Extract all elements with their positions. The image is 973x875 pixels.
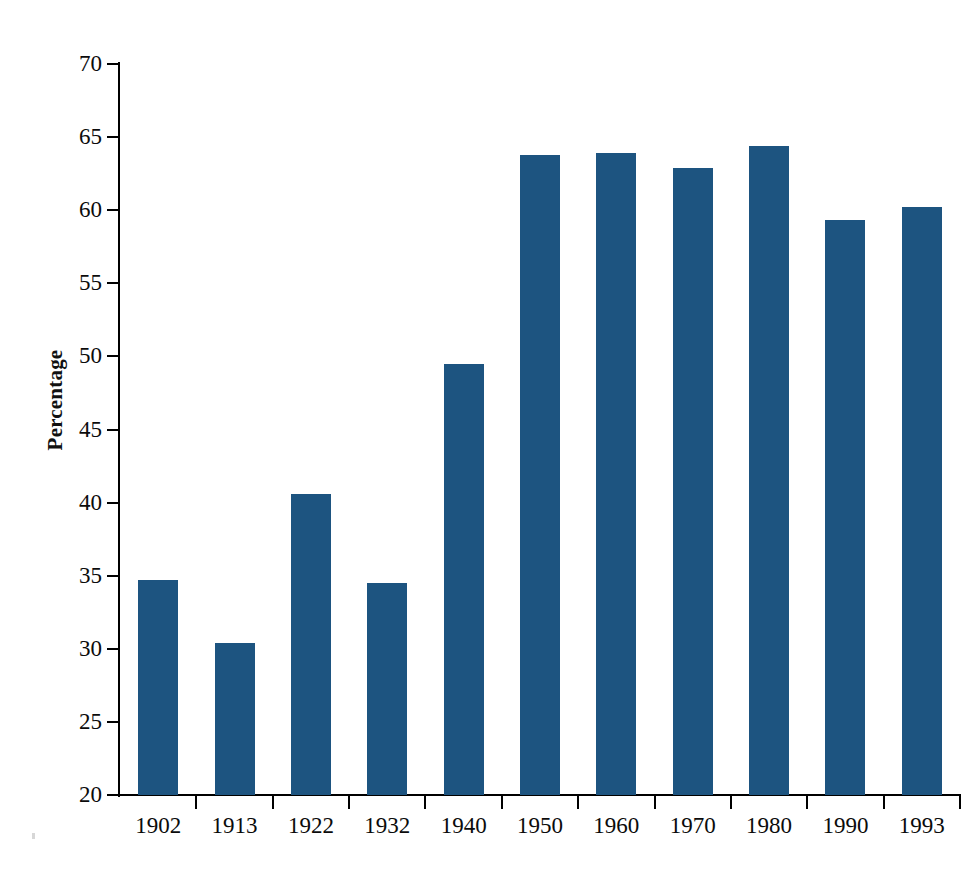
bar: [673, 168, 713, 795]
x-axis-tick: [730, 796, 732, 809]
y-axis-title: Percentage: [40, 280, 70, 520]
y-axis-tick: [107, 721, 118, 723]
y-axis-tick-label: 50: [44, 344, 102, 367]
x-axis-tick-label: 1993: [877, 812, 967, 840]
y-axis-tick-label: 60: [44, 198, 102, 221]
x-axis-tick: [272, 796, 274, 809]
x-axis-tick: [806, 796, 808, 809]
scan-speck: [32, 833, 35, 839]
bar: [825, 220, 865, 795]
x-axis-tick: [654, 796, 656, 809]
y-axis-tick: [107, 355, 118, 357]
bar: [596, 153, 636, 795]
y-axis-tick: [107, 136, 118, 138]
y-axis-tick-label-wrap: 30: [40, 637, 102, 660]
bar: [215, 643, 255, 795]
y-axis-tick: [107, 648, 118, 650]
y-axis-tick-label: 70: [44, 52, 102, 75]
y-axis-tick-label: 35: [44, 564, 102, 587]
x-axis-tick: [348, 796, 350, 809]
x-axis-tick: [959, 796, 961, 809]
y-axis-tick-label: 30: [44, 637, 102, 660]
y-axis-tick-label: 65: [44, 125, 102, 148]
bar: [902, 207, 942, 795]
y-axis-tick: [107, 575, 118, 577]
y-axis-tick-label-wrap: 25: [40, 710, 102, 733]
y-axis-tick: [107, 429, 118, 431]
bar: [138, 580, 178, 795]
y-axis-tick: [107, 63, 118, 65]
y-axis-tick-label-wrap: 40: [40, 491, 102, 514]
x-axis-tick: [501, 796, 503, 809]
y-axis-tick-label: 55: [44, 271, 102, 294]
y-axis-line: [118, 62, 120, 797]
x-axis-tick: [577, 796, 579, 809]
y-axis-tick: [107, 209, 118, 211]
bar: [367, 583, 407, 795]
y-axis-tick-label-wrap: 35: [40, 564, 102, 587]
y-axis-tick-label-wrap: 55: [40, 271, 102, 294]
y-axis-tick-label-wrap: 20: [40, 783, 102, 806]
bar: [749, 146, 789, 795]
x-axis-tick: [195, 796, 197, 809]
x-axis-tick: [424, 796, 426, 809]
bar: [520, 155, 560, 795]
y-axis-tick-label-wrap: 70: [40, 52, 102, 75]
bar: [444, 364, 484, 795]
x-axis-tick: [883, 796, 885, 809]
y-axis-tick-label: 45: [44, 418, 102, 441]
y-axis-tick: [107, 502, 118, 504]
y-axis-tick-label: 25: [44, 710, 102, 733]
bar-chart: Percentage 2025303540455055606570 190219…: [0, 0, 973, 875]
y-axis-tick-label-wrap: 60: [40, 198, 102, 221]
y-axis-tick-label: 20: [44, 783, 102, 806]
y-axis-tick: [107, 282, 118, 284]
y-axis-tick-label-wrap: 50: [40, 344, 102, 367]
y-axis-tick-label: 40: [44, 491, 102, 514]
bar: [291, 494, 331, 795]
y-axis-tick: [107, 794, 118, 796]
y-axis-tick-label-wrap: 65: [40, 125, 102, 148]
y-axis-tick-label-wrap: 45: [40, 418, 102, 441]
